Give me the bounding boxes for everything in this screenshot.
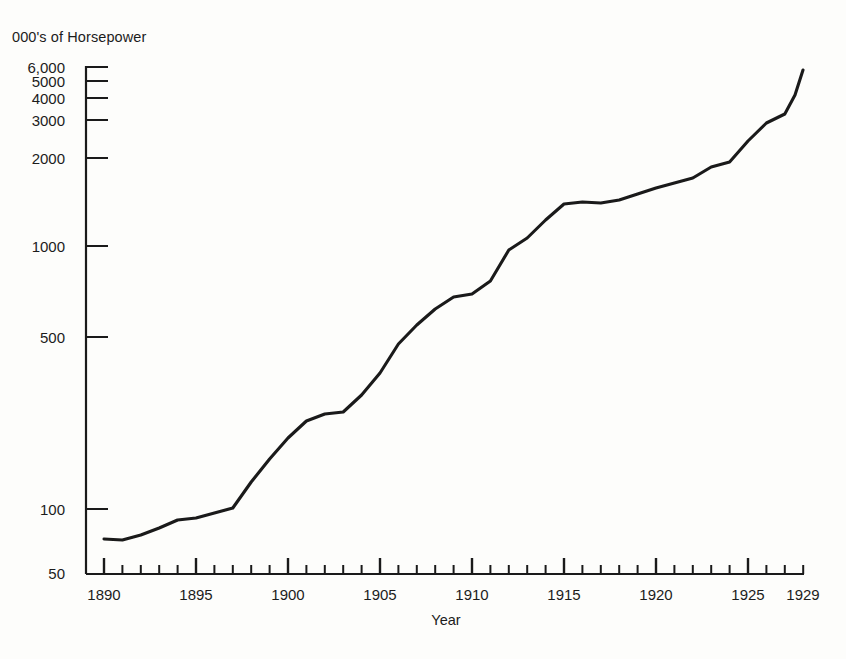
- chart-canvas: [0, 0, 846, 659]
- x-axis-major-ticks: [104, 558, 748, 574]
- chart-figure: 000's of Horsepower 6,000 5000 4000 3000…: [0, 0, 846, 659]
- x-axis-minor-ticks: [122, 565, 803, 574]
- data-line-horsepower: [104, 70, 803, 540]
- y-axis-ticks: [86, 67, 108, 509]
